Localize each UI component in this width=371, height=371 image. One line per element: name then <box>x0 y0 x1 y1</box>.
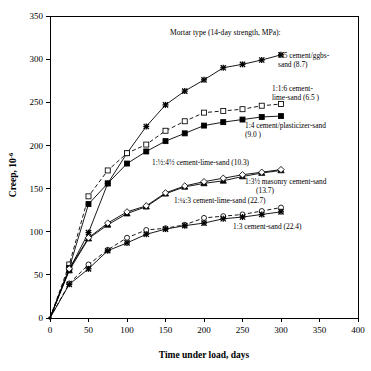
y-tick-label-50: 50 <box>34 270 44 280</box>
data-point-square-filled <box>125 161 130 166</box>
data-point-cross-filled <box>182 88 188 94</box>
y-axis-title-group: Creep, 10-6 <box>7 152 19 197</box>
series-line <box>50 55 281 318</box>
data-point-square-open <box>279 102 284 107</box>
data-point-square-filled <box>182 131 187 136</box>
data-point-square-filled <box>105 181 110 186</box>
data-point-cross-filled <box>201 77 207 83</box>
x-tick-label-250: 250 <box>236 325 250 335</box>
x-tick-label-350: 350 <box>313 325 327 335</box>
y-tick-label-250: 250 <box>30 97 44 107</box>
y-axis-title: Creep, 10-6 <box>7 152 19 197</box>
y-axis-ticks: 050100150200250300350 <box>30 11 51 323</box>
y-tick-label-100: 100 <box>30 227 44 237</box>
data-point-cross-filled <box>143 231 149 237</box>
series-label-masonry-line1: 1:3½ masonry cement-sand <box>245 177 327 186</box>
y-tick-label-0: 0 <box>39 313 44 323</box>
plot-frame <box>50 16 358 318</box>
data-point-square-filled <box>202 123 207 128</box>
data-point-cross-filled <box>143 123 149 129</box>
data-point-cross-filled <box>124 240 130 246</box>
data-point-square-filled <box>279 114 284 119</box>
data-point-cross-filled <box>278 209 284 215</box>
x-tick-label-100: 100 <box>120 325 134 335</box>
data-point-cross-filled <box>163 226 169 232</box>
series-4 <box>50 166 284 318</box>
series-label-116-line1: 1:1:6 cement- <box>272 84 313 93</box>
data-point-square-open <box>144 142 149 147</box>
x-axis-title: Time under load, days <box>159 350 250 360</box>
x-tick-label-400: 400 <box>351 325 365 335</box>
x-tick-label-0: 0 <box>48 325 53 335</box>
data-point-cross-filled <box>240 61 246 67</box>
y-tick-label-150: 150 <box>30 184 44 194</box>
chart-canvas: 050100150200250300350 050100150200250300… <box>0 0 371 371</box>
chart-legend-title: Mortar type (14-day strength, MPa): <box>170 28 281 37</box>
x-axis-ticks: 050100150200250300350400 <box>48 318 366 335</box>
series-label-116-line2: lime-sand (6.5 ) <box>272 93 320 102</box>
data-point-circle-open <box>202 215 207 220</box>
x-tick-label-50: 50 <box>84 325 94 335</box>
data-point-square-filled <box>259 114 264 119</box>
data-point-square-open <box>125 151 130 156</box>
origin-point <box>48 316 52 320</box>
data-point-square-open <box>240 107 245 112</box>
x-tick-label-200: 200 <box>197 325 211 335</box>
series-label-plasticizer-line2: (9.0 ) <box>245 130 262 139</box>
data-point-square-filled <box>86 202 91 207</box>
data-point-circle-open <box>125 235 130 240</box>
data-point-cross-filled <box>201 220 207 226</box>
data-point-cross-filled <box>66 281 72 287</box>
data-point-cross-filled <box>240 214 246 220</box>
data-point-square-open <box>202 110 207 115</box>
series-label-cementsand-line1: 1:3 cement-sand (22.4) <box>233 222 302 231</box>
data-point-cross-filled <box>259 211 265 217</box>
data-point-square-open <box>259 103 264 108</box>
data-point-cross-filled <box>220 65 226 71</box>
data-point-square-filled <box>163 139 168 144</box>
series-label-ggbs-line2: sand (8.7) <box>278 60 308 69</box>
data-point-square-open <box>105 168 110 173</box>
y-tick-label-350: 350 <box>30 11 44 21</box>
series-label-half45-line1: 1:½:4½ cement-lime-sand (10.3) <box>152 158 250 167</box>
data-point-square-open <box>182 119 187 124</box>
creep-chart-figure: 050100150200250300350 050100150200250300… <box>0 0 371 371</box>
data-point-square-open <box>163 128 168 133</box>
y-tick-label-200: 200 <box>30 141 44 151</box>
series-label-plasticizer-line1: 1:4 cement/plasticizer-sand <box>245 121 326 130</box>
series-annotations: 1:5 cement/ggbs- sand (8.7) 1:1:6 cement… <box>152 51 330 231</box>
data-point-cross-filled <box>163 102 169 108</box>
data-point-cross-filled <box>259 57 265 63</box>
data-point-cross-filled <box>105 248 111 254</box>
data-point-cross-filled <box>86 266 92 272</box>
data-point-square-filled <box>144 149 149 154</box>
y-tick-label-300: 300 <box>30 54 44 64</box>
data-point-square-open <box>221 108 226 113</box>
series-line <box>50 116 281 318</box>
data-point-cross-filled <box>220 216 226 222</box>
x-tick-label-300: 300 <box>274 325 288 335</box>
series-label-masonry-line2: (13.7) <box>256 186 274 195</box>
series-label-quarter3-line1: 1:¼:3 cement-lime-sand (22.7) <box>174 196 266 205</box>
x-tick-label-150: 150 <box>159 325 173 335</box>
series-label-ggbs-line1: 1:5 cement/ggbs- <box>278 51 330 60</box>
data-point-square-open <box>86 194 91 199</box>
data-point-square-filled <box>221 120 226 125</box>
data-point-cross-filled <box>182 223 188 229</box>
